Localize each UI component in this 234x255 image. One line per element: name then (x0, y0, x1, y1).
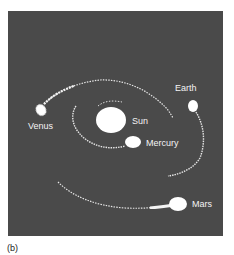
mars-body (169, 197, 187, 211)
label-earth: Earth (175, 83, 197, 93)
panel-label: (b) (7, 243, 18, 253)
sun-body (96, 107, 126, 133)
mercury-body (125, 136, 141, 148)
label-sun: Sun (132, 116, 148, 126)
solar-system-figure: Venus Sun Mercury Earth Mars (b) (0, 0, 234, 255)
label-mercury: Mercury (146, 138, 179, 148)
label-mars: Mars (192, 199, 212, 209)
earth-body (188, 100, 198, 112)
label-venus: Venus (28, 121, 54, 131)
